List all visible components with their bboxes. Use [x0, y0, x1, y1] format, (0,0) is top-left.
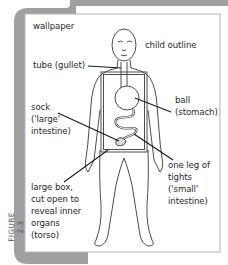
label-box-3: reveal inner — [31, 206, 81, 217]
label-ball-stomach-2: (stomach) — [175, 107, 218, 118]
label-box-5: (torso) — [31, 230, 59, 241]
label-tights-4: intestine) — [168, 196, 208, 207]
figure-number: FIGURE 2.3 — [7, 207, 17, 247]
label-child-outline: child outline — [145, 40, 196, 51]
label-sock-1: sock — [31, 102, 50, 113]
label-sock-3: intestine) — [31, 126, 71, 137]
label-tights-3: ('small' — [168, 184, 198, 195]
label-box-4: organs — [31, 218, 60, 229]
label-box-2: cut open to — [31, 194, 79, 205]
label-tights-2: tights — [168, 172, 192, 183]
label-sock-2: ('large' — [31, 114, 60, 125]
large-intestine-sock — [116, 138, 126, 146]
label-wallpaper: wallpaper — [33, 21, 74, 32]
label-tights-1: one leg of — [168, 160, 210, 171]
label-tube-gullet: tube (gullet) — [33, 60, 85, 71]
label-box-1: large box, — [31, 182, 73, 193]
label-ball-stomach-1: ball — [175, 95, 190, 106]
